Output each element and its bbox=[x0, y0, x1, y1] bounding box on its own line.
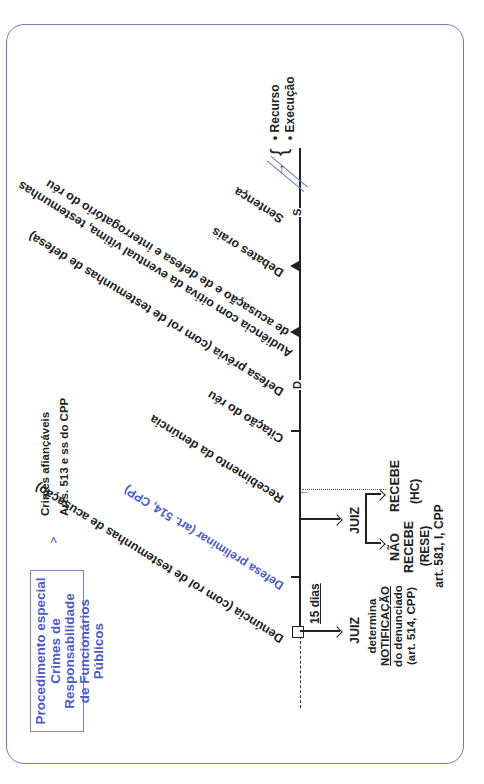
after-sentence-list: • Recurso • Execução bbox=[268, 76, 298, 140]
sentenca-marker: S bbox=[291, 208, 303, 217]
title-line: de Funcionários Públicos bbox=[78, 571, 107, 731]
rejects-label: NÃO RECEBE bbox=[388, 515, 416, 579]
receives-label: RECEBE bbox=[388, 460, 402, 512]
title-box: Procedimento especial Crimes de Responsa… bbox=[30, 570, 84, 732]
chevron-right-icon: ˄ bbox=[50, 533, 58, 548]
citacao-tick bbox=[291, 430, 300, 432]
diagram-canvas: Procedimento especial Crimes de Responsa… bbox=[0, 0, 484, 784]
brace-icon: { bbox=[266, 149, 292, 156]
notification-detail: determina NOTIFICAÇÃO do denunciado (art… bbox=[366, 576, 418, 676]
recurso-item: • Recurso bbox=[268, 76, 283, 140]
execucao-item: • Execução bbox=[283, 76, 298, 140]
debates-marker bbox=[290, 261, 299, 271]
title-line: Procedimento especial bbox=[34, 571, 49, 731]
rejects-remedy: (RESE) art. 581, I, CPP bbox=[418, 498, 446, 594]
deadline-label: 15 dias bbox=[308, 583, 322, 624]
timeline-dashed-start bbox=[300, 636, 301, 708]
arrow-right-icon: → bbox=[272, 163, 287, 176]
judge-decision-actor: JUIZ bbox=[348, 507, 362, 534]
title-line: Crimes de Responsabilidade bbox=[49, 571, 78, 731]
arrow-up-icon: ↑ bbox=[298, 490, 309, 495]
decision-split-line bbox=[365, 494, 367, 544]
judge-notification-actor: JUIZ bbox=[348, 617, 362, 644]
receives-remedy: (HC) bbox=[408, 479, 422, 504]
defesa-previa-marker: D bbox=[291, 380, 303, 390]
receives-dotted-link bbox=[302, 489, 386, 490]
denuncia-marker bbox=[292, 626, 304, 638]
timeline-axis bbox=[299, 148, 301, 632]
defesa-preliminar-tick bbox=[291, 576, 300, 578]
